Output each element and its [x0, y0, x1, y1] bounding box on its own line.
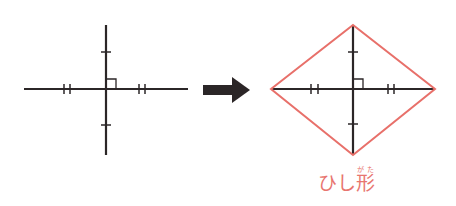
label-kanji: 形 [356, 172, 375, 194]
rhombus-label: ひし形がた [318, 166, 375, 193]
right-angle-mark [353, 79, 363, 89]
left-figure [24, 25, 188, 155]
diagram-canvas [0, 0, 456, 206]
right-arrow-icon [203, 77, 250, 103]
label-ruby: がた [356, 166, 375, 174]
arrow-head [232, 77, 250, 103]
label-prefix: ひし [318, 172, 356, 194]
right-angle-mark [106, 79, 116, 89]
right-figure-rhombus [271, 25, 435, 155]
arrow-shaft [203, 85, 233, 95]
label-kanji-with-ruby: 形がた [356, 172, 375, 194]
